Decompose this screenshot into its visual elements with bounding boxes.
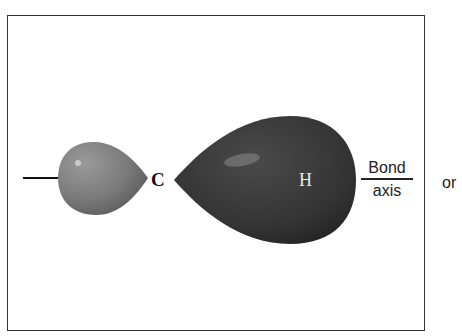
or-text: or bbox=[442, 174, 456, 192]
small-lobe bbox=[58, 142, 148, 215]
large-lobe bbox=[174, 116, 356, 244]
bond-axis-rule bbox=[361, 178, 413, 180]
small-lobe-highlight bbox=[75, 160, 81, 166]
bond-axis-label: Bond axis bbox=[361, 158, 413, 200]
hydrogen-label: H bbox=[299, 170, 312, 191]
bond-axis-label-top: Bond bbox=[361, 158, 413, 177]
bond-axis-label-bottom: axis bbox=[361, 181, 413, 200]
carbon-label: C bbox=[151, 169, 165, 191]
